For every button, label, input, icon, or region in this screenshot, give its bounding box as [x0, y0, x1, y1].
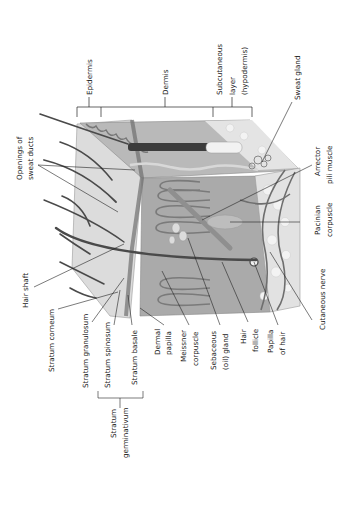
hair-bulb-top	[206, 142, 242, 153]
label-dermis: Dermis	[161, 69, 170, 95]
label-subcutaneous-3: (hypodermis)	[240, 47, 249, 95]
skin-cross-section-diagram: Epidermis Dermis Subcutaneous layer (hyp…	[0, 0, 346, 528]
layer-brackets	[77, 97, 252, 117]
label-sebaceous-2: (oil) gland	[221, 334, 230, 370]
label-dermal-2: papilla	[164, 331, 173, 355]
skin-block	[72, 120, 300, 318]
label-stratum-granulosum: Stratum granulosum	[81, 314, 90, 388]
label-follicle-1: Hair	[239, 329, 248, 344]
label-pacinian-2: corpuscle	[325, 202, 334, 237]
hair-follicle-top	[128, 143, 210, 151]
label-subcutaneous-2: layer	[228, 77, 237, 95]
label-dermal-1: Dermal	[153, 329, 162, 355]
label-cutaneous-nerve: Cutaneous nerve	[318, 268, 327, 330]
label-stratum-basale: Stratum basale	[130, 329, 139, 385]
label-stratum-corneum: Stratum corneum	[47, 309, 56, 372]
label-pacinian-1: Pacinian	[313, 205, 322, 235]
layer-labels: Epidermis Dermis Subcutaneous layer (hyp…	[85, 44, 249, 95]
label-arrector-2: pili muscle	[325, 145, 334, 184]
label-hair-shaft: Hair shaft	[21, 273, 30, 308]
label-germinativum-2: germinativum	[121, 408, 130, 458]
label-stratum-spinosum: Stratum spinosum	[103, 322, 112, 388]
label-sweat-gland: Sweat gland	[293, 56, 302, 100]
label-meissner-1: Meissner	[179, 330, 188, 362]
label-papilla-hair-2: of hair	[278, 332, 287, 355]
label-sebaceous-1: Sebaceous	[209, 331, 218, 370]
label-subcutaneous-1: Subcutaneous	[215, 44, 224, 95]
label-meissner-2: corpuscle	[191, 331, 200, 366]
label-follicle-2: follicle	[251, 328, 260, 352]
label-epidermis: Epidermis	[85, 59, 94, 95]
label-papilla-hair-1: Papilla	[266, 330, 275, 353]
label-arrector-1: Arrector	[313, 147, 322, 176]
label-openings-1: Openings of	[15, 136, 24, 180]
label-openings-2: sweat ducts	[26, 137, 35, 180]
label-germinativum-1: Stratum	[109, 409, 118, 438]
